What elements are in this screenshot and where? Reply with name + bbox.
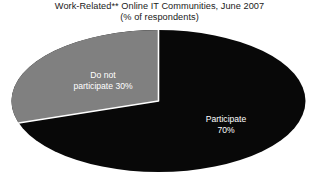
pie-chart-figure: Work-Related** Online IT Communities, Ju… [0,0,319,185]
pie-svg [0,0,319,185]
pie-plot-area [0,0,319,185]
